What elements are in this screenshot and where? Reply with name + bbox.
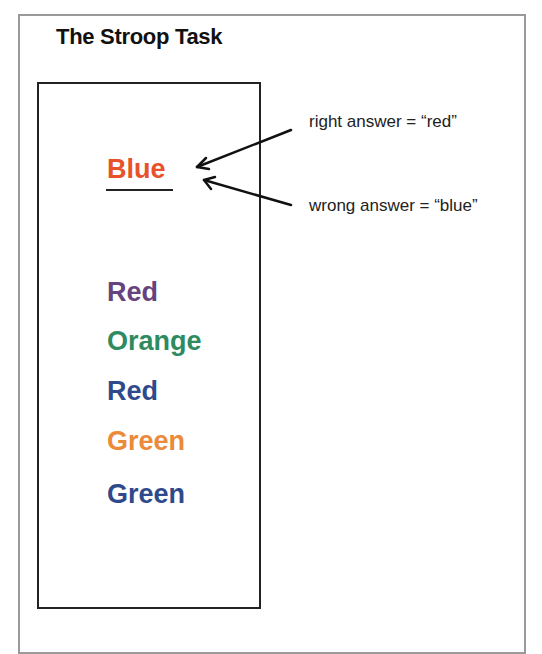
wrong-answer-arrow xyxy=(204,180,291,205)
wrong-answer-label: wrong answer = “blue” xyxy=(309,196,478,216)
right-answer-arrow xyxy=(197,130,291,167)
right-answer-label: right answer = “red” xyxy=(309,112,457,132)
